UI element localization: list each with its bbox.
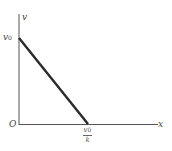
v0-label: v0 <box>3 33 12 42</box>
v-x-line <box>19 38 88 124</box>
origin-label: O <box>9 120 16 129</box>
v0-over-k-label: v0 k <box>83 127 92 144</box>
fraction-numerator: v0 <box>84 127 92 134</box>
v0-label-sub: 0 <box>8 34 12 41</box>
x-axis-label: x <box>158 120 163 129</box>
y-axis-label: v <box>22 13 27 22</box>
fraction-denominator: k <box>85 137 89 144</box>
